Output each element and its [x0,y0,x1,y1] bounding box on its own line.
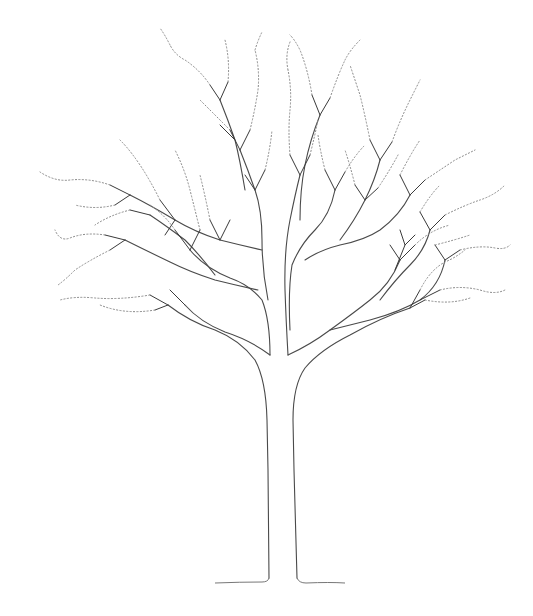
trunk [125,100,445,578]
tree-illustration: Line drawing of a bare tree [0,0,533,616]
tree-drawing [0,0,533,616]
ground-line [215,578,345,583]
outer-twigs [40,28,510,312]
